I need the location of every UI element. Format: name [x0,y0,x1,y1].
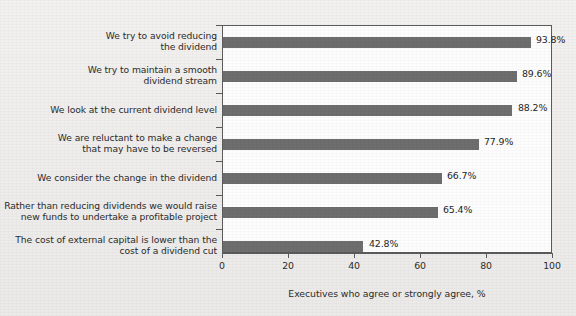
value-label-4: 66.7% [447,170,476,181]
bar-4[interactable] [223,173,442,184]
x-tick-label-100: 100 [532,260,572,271]
category-tick [216,25,222,26]
category-label-4: We consider the change in the dividend [0,172,217,183]
bar-3[interactable] [223,139,479,150]
x-tick-40 [354,253,355,258]
x-tick-80 [486,253,487,258]
x-tick-20 [288,253,289,258]
x-tick-label-40: 40 [334,260,374,271]
bar-row [223,94,551,128]
bar-row [223,26,551,60]
bar-row [223,60,551,94]
bar-chart-figure: We try to avoid reducing the dividend We… [0,0,576,316]
x-tick-label-20: 20 [268,260,308,271]
category-label-2: We look at the current dividend level [0,104,217,115]
value-label-0: 93.8% [536,34,565,45]
category-label-1: We try to maintain a smooth dividend str… [0,64,217,87]
category-tick [216,127,222,128]
category-tick [216,59,222,60]
value-label-5: 65.4% [443,204,472,215]
bar-1[interactable] [223,71,517,82]
x-tick-label-0: 0 [202,260,242,271]
value-label-6: 42.8% [369,238,398,249]
category-label-0: We try to avoid reducing the dividend [0,30,217,53]
bar-row [223,196,551,230]
x-tick-60 [420,253,421,258]
category-label-5: Rather than reducing dividends we would … [0,200,217,223]
value-label-3: 77.9% [484,136,513,147]
category-tick [216,161,222,162]
x-tick-100 [552,253,553,258]
x-tick-0 [222,253,223,258]
category-label-3: We are reluctant to make a change that m… [0,132,217,155]
x-axis-line [222,253,552,254]
category-label-6: The cost of external capital is lower th… [0,234,217,257]
x-axis-title: Executives who agree or strongly agree, … [222,288,552,299]
value-label-1: 89.6% [522,68,551,79]
x-tick-label-60: 60 [400,260,440,271]
bar-5[interactable] [223,207,438,218]
bar-row [223,162,551,196]
bar-0[interactable] [223,37,531,48]
category-tick [216,93,222,94]
x-tick-label-80: 80 [466,260,506,271]
bar-6[interactable] [223,241,363,252]
category-tick [216,195,222,196]
bar-2[interactable] [223,105,512,116]
value-label-2: 88.2% [518,102,547,113]
category-tick [216,229,222,230]
